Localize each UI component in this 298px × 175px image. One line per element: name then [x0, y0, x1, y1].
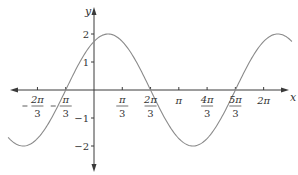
y-tick-label: 2 — [83, 29, 89, 40]
x-tick-label-numerator: 5π — [229, 94, 242, 105]
y-axis-label: y — [84, 5, 92, 18]
x-axis-label: x — [290, 91, 297, 104]
x-tick-label-denominator: 3 — [232, 108, 238, 119]
x-tick-label-numerator: 2π — [143, 94, 157, 105]
axes — [10, 7, 289, 172]
y-axis-arrow-up-icon — [92, 7, 97, 15]
y-tick-label: 1 — [83, 57, 89, 68]
x-tick-label: π — [175, 95, 183, 106]
x-tick-label-denominator: 3 — [119, 108, 125, 119]
y-tick-label: −1 — [74, 113, 89, 124]
x-tick-label-denominator: 3 — [34, 108, 40, 119]
y-axis-arrow-down-icon — [92, 164, 97, 172]
sine-graph: 2π3π3π32π3π4π35π32π21−1−2 x y — [0, 0, 298, 175]
x-axis-arrow-right-icon — [281, 88, 289, 93]
x-tick-label-numerator: 2π — [30, 94, 44, 105]
x-tick-label-numerator: 4π — [200, 94, 214, 105]
x-axis-arrow-left-icon — [10, 88, 18, 93]
x-tick-label: 2π — [256, 95, 270, 106]
y-tick-label: −2 — [74, 141, 89, 152]
x-tick-label-denominator: 3 — [204, 108, 210, 119]
x-tick-label-numerator: π — [118, 94, 126, 105]
x-tick-label-denominator: 3 — [63, 108, 69, 119]
x-tick-label-denominator: 3 — [147, 108, 153, 119]
x-tick-label-numerator: π — [61, 94, 69, 105]
